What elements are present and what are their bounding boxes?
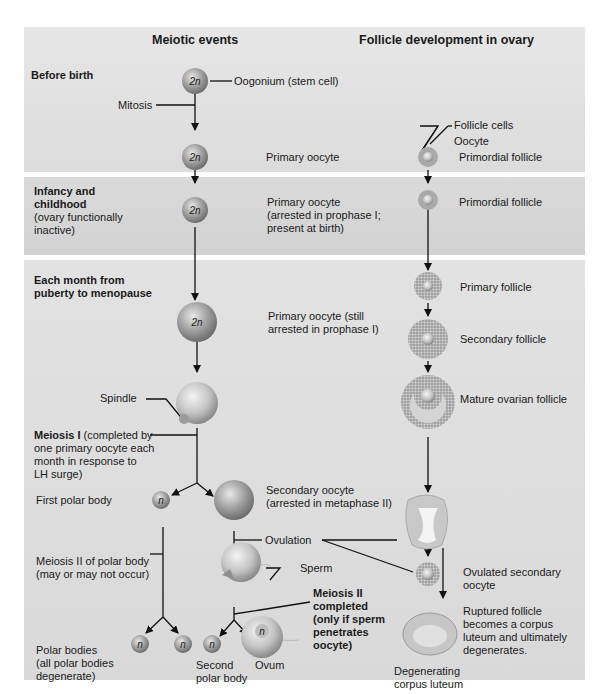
label-mature-follicle: Mature ovarian follicle — [460, 393, 567, 406]
label-follicle-cells: Follicle cells — [454, 119, 513, 132]
svg-text:n: n — [209, 639, 215, 650]
stage-before-birth: Before birth — [31, 69, 93, 82]
label-oocyte: Oocyte — [454, 135, 489, 148]
label-first-polar-body: First polar body — [36, 494, 112, 507]
svg-text:2n: 2n — [190, 317, 203, 328]
stage-infancy: Infancy andchildhood — [34, 185, 95, 211]
svg-text:2n: 2n — [188, 76, 201, 87]
label-secondary-follicle: Secondary follicle — [460, 333, 546, 346]
header-follicle: Follicle development in ovary — [359, 34, 534, 47]
label-primary-still: Primary oocyte (stillarrested in prophas… — [268, 310, 379, 336]
stage-infancy-note: (ovary functionallyinactive) — [34, 211, 123, 237]
header-meiotic: Meiotic events — [152, 34, 238, 47]
stage-puberty: Each month frompuberty to menopause — [34, 274, 152, 300]
label-ovum: Ovum — [255, 659, 284, 672]
label-second-polar-body: Secondpolar body — [196, 659, 247, 685]
label-primary-oocyte: Primary oocyte — [266, 151, 339, 164]
label-spindle: Spindle — [100, 392, 137, 405]
svg-text:n: n — [137, 639, 143, 650]
svg-text:n: n — [180, 639, 186, 650]
label-primary-arrested: Primary oocyte(arrested in prophase I;pr… — [267, 196, 381, 235]
label-meiosis-1: Meiosis I (completed byone primary oocyt… — [34, 429, 154, 481]
label-mitosis: Mitosis — [118, 99, 152, 112]
label-degenerating-corpus-luteum: Degeneratingcorpus luteum — [394, 665, 463, 691]
label-meiosis-2-polar: Meiosis II of polar body(may or may not … — [36, 555, 149, 581]
label-primary-follicle: Primary follicle — [460, 281, 532, 294]
label-primordial-follicle: Primordial follicle — [459, 151, 542, 164]
label-oogonium: Oogonium (stem cell) — [234, 75, 339, 88]
svg-text:2n: 2n — [188, 205, 201, 216]
label-primordial-follicle-2: Primordial follicle — [459, 196, 542, 209]
svg-text:n: n — [158, 495, 164, 506]
label-polar-bodies: Polar bodies(all polar bodiesdegenerate) — [36, 644, 114, 683]
svg-text:2n: 2n — [188, 152, 201, 163]
label-ovulated-oocyte: Ovulated secondaryoocyte — [463, 566, 561, 592]
label-sperm: Sperm — [300, 562, 332, 575]
label-ovulation: Ovulation — [265, 534, 311, 547]
label-meiosis-2-completed: Meiosis IIcompleted(only if spermpenetra… — [313, 587, 385, 652]
label-ruptured-follicle: Ruptured folliclebecomes a corpusluteum … — [463, 605, 567, 657]
svg-text:n: n — [259, 626, 265, 637]
label-secondary-oocyte: Secondary oocyte(arrested in metaphase I… — [266, 484, 392, 510]
